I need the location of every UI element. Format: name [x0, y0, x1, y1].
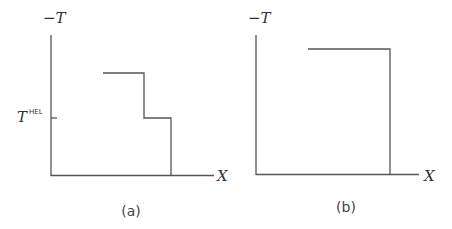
x-axis-label-b: X	[423, 167, 436, 185]
panel-b: −T X (b)	[248, 9, 436, 215]
profile-b	[308, 49, 390, 174]
y-axis-label-a: −T	[43, 9, 67, 27]
tick-label-hel-sup: HEL	[29, 108, 43, 116]
caption-b: (b)	[336, 199, 356, 215]
profile-a	[103, 73, 171, 175]
y-axis-label-b: −T	[248, 9, 272, 27]
x-axis-label-a: X	[216, 167, 229, 185]
caption-a: (a)	[121, 203, 141, 219]
tick-label-hel: T	[17, 108, 28, 126]
figure: −T X T HEL (a) −T X (b)	[0, 0, 452, 229]
panel-a: −T X T HEL (a)	[17, 9, 229, 219]
